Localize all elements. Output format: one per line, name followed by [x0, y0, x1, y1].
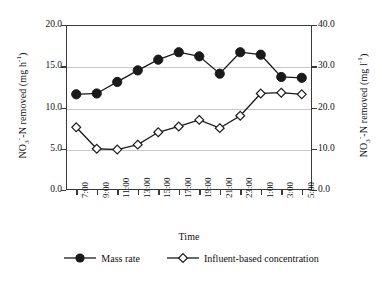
data-point-marker — [195, 115, 204, 124]
y-axis-right-tick-label: 20.0 — [318, 102, 358, 112]
y-axis-right-tick-mark — [312, 108, 317, 109]
chart-figure: NO3--N removed (mg h-1) NO3--N removed (… — [0, 0, 382, 282]
data-point-marker — [113, 77, 122, 86]
x-axis-tick-mark — [302, 190, 303, 195]
data-point-marker — [154, 55, 163, 64]
y-axis-left-tick-label: 0.0 — [22, 184, 62, 194]
x-axis-tick-mark — [97, 190, 98, 195]
y-axis-right-tick-label: 0.0 — [318, 184, 358, 194]
x-axis-tick-mark — [281, 190, 282, 195]
y-axis-right-tick-mark — [312, 25, 317, 26]
y-axis-right-tick-label: 30.0 — [318, 60, 358, 70]
data-point-marker — [72, 90, 81, 99]
data-point-marker — [297, 90, 306, 99]
data-point-marker — [174, 48, 183, 57]
data-point-marker — [195, 52, 204, 61]
data-point-marker — [215, 69, 224, 78]
x-axis-tick-mark — [179, 190, 180, 195]
x-axis-tick-mark — [220, 190, 221, 195]
data-point-marker — [277, 88, 286, 97]
y-axis-left-tick-label: 20.0 — [22, 19, 62, 29]
data-point-marker — [256, 50, 265, 59]
x-axis-tick-mark — [158, 190, 159, 195]
legend-label: Influent-based concentration — [204, 253, 319, 264]
y-axis-right-tick-mark — [312, 66, 317, 67]
y-axis-right-tick-mark — [312, 149, 317, 150]
y-axis-right-title: NO3--N removed (mg l-1) — [358, 21, 369, 191]
x-axis-tick-mark — [240, 190, 241, 195]
x-axis-title: Time — [66, 231, 312, 242]
x-axis-tick-mark — [199, 190, 200, 195]
data-point-marker — [236, 48, 245, 57]
data-point-marker — [113, 145, 122, 154]
data-point-marker — [154, 128, 163, 137]
y-axis-left-tick-label: 5.0 — [22, 143, 62, 153]
data-point-marker — [277, 72, 286, 81]
data-point-marker — [133, 140, 142, 149]
x-axis-tick-mark — [117, 190, 118, 195]
x-axis-tick-mark — [76, 190, 77, 195]
legend-filled-circle-icon — [63, 252, 97, 264]
legend-label: Mass rate — [101, 253, 140, 264]
y-axis-left-tick-label: 15.0 — [22, 60, 62, 70]
x-axis-tick-mark — [138, 190, 139, 195]
series-line-1 — [76, 93, 302, 150]
data-point-marker — [174, 122, 183, 131]
series-line-0 — [76, 52, 302, 94]
legend-entry-1[interactable]: Influent-based concentration — [166, 252, 319, 264]
data-point-marker — [215, 124, 224, 133]
series-layer — [66, 25, 312, 190]
data-point-marker — [133, 66, 142, 75]
data-point-marker — [297, 73, 306, 82]
y-axis-right-tick-label: 40.0 — [318, 19, 358, 29]
y-axis-left-tick-label: 10.0 — [22, 102, 62, 112]
data-point-marker — [92, 89, 101, 98]
x-axis-tick-mark — [261, 190, 262, 195]
chart-legend: Mass rateInfluent-based concentration — [0, 252, 382, 264]
y-axis-left-tick-mark — [61, 190, 66, 191]
legend-open-diamond-icon — [166, 252, 200, 264]
y-axis-right-tick-label: 10.0 — [318, 143, 358, 153]
legend-entry-0[interactable]: Mass rate — [63, 252, 140, 264]
